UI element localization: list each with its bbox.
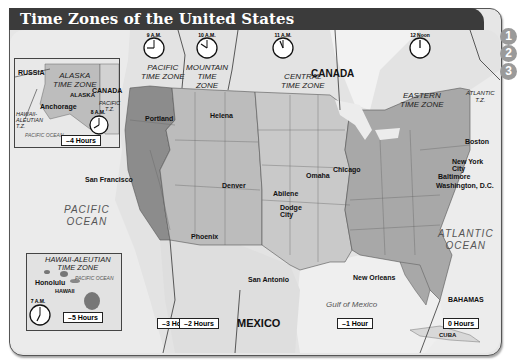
eastern-hours-offset: 0 Hours xyxy=(443,318,479,329)
pacific-ocean-label: PACIFIC OCEAN xyxy=(64,204,110,228)
alaska-inset: RUSSIA ALASKA TIME ZONE ALASKA Anchorage… xyxy=(14,58,120,148)
clock-icon-12noon xyxy=(409,37,431,59)
mountain-hours-offset: –2 Hours xyxy=(179,318,219,329)
city-new-york-city: New York City xyxy=(452,158,483,172)
city-portland: Portland xyxy=(145,115,173,122)
city-dodge-city: Dodge City xyxy=(280,204,302,218)
map-title: Time Zones of the United States xyxy=(20,10,294,28)
step-number-2: 2 xyxy=(500,45,517,62)
city-omaha: Omaha xyxy=(306,172,330,179)
city-san-antonio: San Antonio xyxy=(248,276,289,283)
atlantic-ocean-label: ATLANTIC OCEAN xyxy=(438,228,494,252)
canada-label: CANADA xyxy=(311,68,354,79)
city-boston: Boston xyxy=(465,138,489,145)
alaska-time-zone-label: ALASKA TIME ZONE xyxy=(53,71,97,89)
step-number-3: 3 xyxy=(500,63,517,80)
alaska-pacific-ocean-label: PACIFIC OCEAN xyxy=(25,132,64,138)
clock-icon-8am xyxy=(89,115,109,135)
city-abilene: Abilene xyxy=(273,190,298,197)
city-denver: Denver xyxy=(222,182,246,189)
city-honolulu: Honolulu xyxy=(35,279,65,286)
city-chicago: Chicago xyxy=(333,166,361,173)
cuba-label: CUBA xyxy=(439,332,456,338)
hawaii-time-zone-label: HAWAII-ALEUTIAN TIME ZONE xyxy=(45,256,111,272)
hawaii-inset: HAWAII-ALEUTIAN TIME ZONE PACIFIC OCEAN … xyxy=(26,253,122,331)
city-phoenix: Phoenix xyxy=(191,233,218,240)
city-washington-dc: Washington, D.C. xyxy=(436,182,494,189)
alaska-canada-label: CANADA xyxy=(92,87,122,94)
step-number-1: 1 xyxy=(500,28,517,45)
gulf-of-mexico-label: Gulf of Mexico xyxy=(326,300,377,309)
city-baltimore: Baltimore xyxy=(438,173,470,180)
pacific-time-zone-label: PACIFIC TIME ZONE xyxy=(141,63,185,81)
mountain-time-zone-label: MOUNTAIN TIME ZONE xyxy=(186,63,228,90)
clock-icon-7am xyxy=(29,304,51,326)
city-anchorage: Anchorage xyxy=(40,103,77,110)
hawaii-pacific-ocean-label: PACIFIC OCEAN xyxy=(75,275,114,281)
hawaii-state-label: HAWAII xyxy=(55,288,75,294)
eastern-time-zone-label: EASTERN TIME ZONE xyxy=(400,91,444,109)
city-helena: Helena xyxy=(210,112,233,119)
clock-icon-10am xyxy=(196,37,218,59)
city-new-orleans: New Orleans xyxy=(353,274,395,281)
mexico-label: MEXICO xyxy=(237,317,280,329)
russia-label: RUSSIA xyxy=(18,69,44,76)
clock-icon-9am xyxy=(143,37,165,59)
city-san-francisco: San Francisco xyxy=(85,176,133,183)
hawaii-hours-offset: –5 Hours xyxy=(63,312,103,323)
alaska-hawaii-aleutian-tz-label: HAWAII- ALEUTIAN T.Z. xyxy=(16,111,43,129)
bahamas-label: BAHAMAS xyxy=(448,296,484,303)
central-hours-offset: –1 Hour xyxy=(337,318,373,329)
alaska-hours-offset: –4 Hours xyxy=(61,135,101,146)
atlantic-time-zone-label: ATLANTIC T.Z. xyxy=(466,90,495,104)
clock-icon-11am xyxy=(272,37,294,59)
